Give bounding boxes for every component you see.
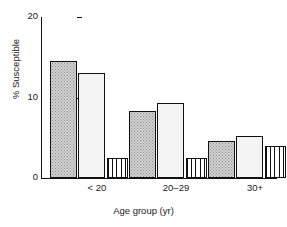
y-tick-label: 10 (27, 91, 38, 102)
x-tick-label: 30+ (247, 182, 263, 193)
y-tick-mark (77, 178, 82, 179)
y-axis-title: % Susceptible (9, 9, 23, 129)
bar (78, 73, 105, 178)
x-axis-title: Age group (yr) (0, 205, 287, 216)
x-tick-label: < 20 (88, 182, 107, 193)
bar (157, 103, 184, 178)
bar (107, 158, 128, 178)
y-tick-label: 20 (27, 10, 38, 21)
plot-area (41, 17, 277, 178)
bar (186, 158, 207, 178)
bar (208, 141, 235, 178)
y-tick-label: 0 (33, 171, 38, 182)
bar (129, 111, 156, 178)
bar (265, 146, 286, 178)
bar (50, 61, 77, 178)
bar-chart-figure: % Susceptible 20100 < 2020–2930+ Age gro… (0, 0, 287, 227)
x-tick-label: 20–29 (163, 182, 189, 193)
bar (236, 136, 263, 178)
